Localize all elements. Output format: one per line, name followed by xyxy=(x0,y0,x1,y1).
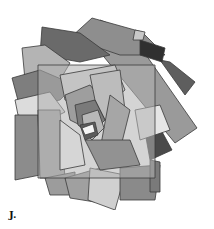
rectangle-shape xyxy=(133,30,145,40)
spiral-rectangles-figure xyxy=(0,0,214,210)
figure-label: J. xyxy=(9,209,16,220)
rectangle-shape xyxy=(15,115,40,180)
rectangle-group xyxy=(12,18,197,210)
